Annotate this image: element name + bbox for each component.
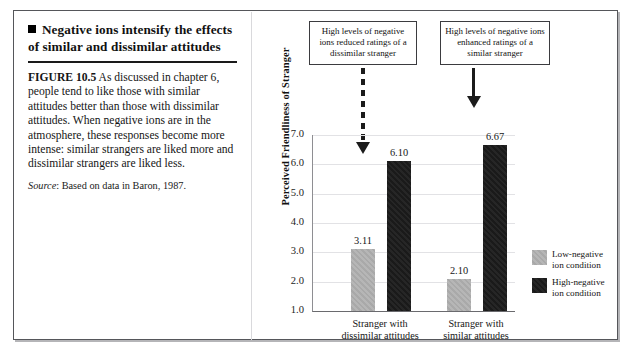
bar-value-label: 6.67 [473,131,517,142]
bar-value-label: 2.10 [437,265,481,276]
chart-legend: Low-negative ion condition High-negative… [532,249,616,305]
square-bullet-icon [28,25,36,33]
caption-body-text: As discussed in chapter 6, people tend t… [28,71,233,170]
legend-label-low: Low-negative ion condition [552,249,603,270]
legend-label-high: High-negative ion condition [552,277,605,298]
x-axis-category-line: similar attitudes [424,330,528,342]
legend-swatch-low-icon [532,250,547,265]
figure-heading: Negative ions intensify the effects of s… [28,22,237,55]
x-axis-category-line: Stranger with [424,318,528,330]
x-axis-category-label: Stranger withdissimilar attitudes [328,318,432,343]
bar-high-0 [387,161,411,311]
chart-panel: High levels of negative ions reduced rat… [252,11,618,341]
figure-source: Source: Based on data in Baron, 1987. [28,179,237,192]
legend-label-high-line2: ion condition [552,288,601,298]
callout-similar: High levels of negative ions enhanced ra… [440,21,550,65]
heading-divider-rule [28,61,237,63]
legend-item-low: Low-negative ion condition [532,249,616,270]
y-axis-tick-label: 3.0 [252,245,304,256]
legend-swatch-high-icon [532,278,547,293]
y-axis-tick-label: 5.0 [252,187,304,198]
x-axis-category-line: dissimilar attitudes [328,330,432,342]
solid-down-arrow-head-icon [467,96,481,108]
bar-value-label: 6.10 [377,147,421,158]
legend-label-low-line2: ion condition [552,260,601,270]
legend-label-high-line1: High-negative [552,277,605,287]
bar-value-label: 3.11 [341,235,385,246]
y-axis-tick-label: 4.0 [252,216,304,227]
caption-figure-label: FIGURE 10.5 [28,71,96,84]
source-label: Source [28,180,56,191]
source-text: : Based on data in Baron, 1987. [56,180,186,191]
y-axis-tick-label: 1.0 [252,304,304,315]
y-axis-tick-label: 7.0 [252,128,304,139]
legend-item-high: High-negative ion condition [532,277,616,298]
caption-panel: Negative ions intensify the effects of s… [14,11,251,341]
figure-heading-text: Negative ions intensify the effects of s… [28,22,232,54]
x-axis-category-line: Stranger with [328,318,432,330]
legend-label-low-line1: Low-negative [552,249,603,259]
bar-low-1 [447,279,471,311]
callout-dissimilar: High levels of negative ions reduced rat… [309,21,417,65]
bar-high-1 [483,145,507,311]
y-axis-tick-label: 2.0 [252,275,304,286]
y-axis-tick-label: 6.0 [252,157,304,168]
figure-frame: Negative ions intensify the effects of s… [13,10,618,340]
plot-area: 3.116.102.106.67 [312,135,515,312]
figure-caption: FIGURE 10.5 As discussed in chapter 6, p… [28,71,237,172]
x-axis-category-label: Stranger withsimilar attitudes [424,318,528,343]
solid-down-arrow-shaft-icon [472,68,475,99]
bar-low-0 [351,249,375,311]
